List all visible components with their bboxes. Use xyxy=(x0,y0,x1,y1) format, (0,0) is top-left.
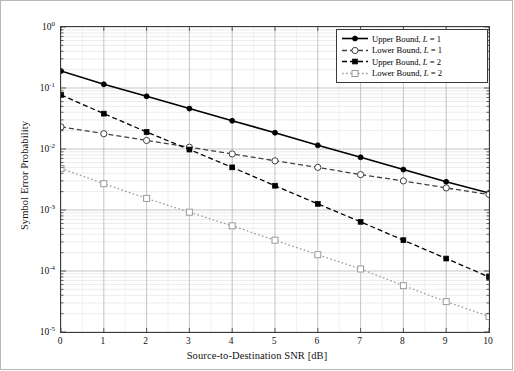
legend-item: Lower Bound, L = 2 xyxy=(341,68,483,80)
x-tick-label: 1 xyxy=(91,336,115,346)
legend-line-sample xyxy=(341,56,369,67)
legend-item: Upper Bound, L = 2 xyxy=(341,56,483,68)
chart-legend: Upper Bound, L = 1Lower Bound, L = 1Uppe… xyxy=(336,29,488,83)
x-tick-label: 2 xyxy=(134,336,158,346)
legend-label: Lower Bound, L = 1 xyxy=(372,45,442,55)
legend-label: Upper Bound, L = 1 xyxy=(372,34,441,44)
x-tick-label: 8 xyxy=(390,336,414,346)
x-tick-label: 6 xyxy=(305,336,329,346)
x-tick-label: 10 xyxy=(476,336,500,346)
y-tick-label: 10-5 xyxy=(0,325,55,337)
y-tick-label: 100 xyxy=(0,20,55,32)
x-tick-label: 4 xyxy=(219,336,243,346)
figure-container: 10010-110-210-310-410-5 012345678910 Sou… xyxy=(0,0,514,371)
legend-item: Upper Bound, L = 1 xyxy=(341,33,483,45)
x-tick-label: 3 xyxy=(176,336,200,346)
x-axis-label: Source-to-Destination SNR [dB] xyxy=(0,350,514,361)
legend-line-sample xyxy=(341,33,369,44)
x-tick-label: 9 xyxy=(433,336,457,346)
legend-item: Lower Bound, L = 1 xyxy=(341,45,483,57)
x-tick-label: 7 xyxy=(348,336,372,346)
legend-line-sample xyxy=(341,45,369,56)
legend-line-sample xyxy=(341,68,369,79)
x-tick-label: 5 xyxy=(262,336,286,346)
legend-label: Upper Bound, L = 2 xyxy=(372,57,441,67)
legend-label: Lower Bound, L = 2 xyxy=(372,68,442,78)
y-axis-label: Symbol Error Probability xyxy=(19,66,30,286)
x-tick-label: 0 xyxy=(48,336,72,346)
